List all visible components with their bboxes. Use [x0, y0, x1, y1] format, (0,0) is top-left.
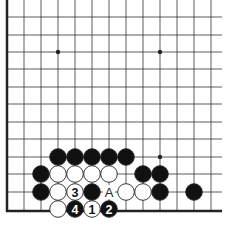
- white-stone: [101, 166, 118, 183]
- move-number: 2: [106, 203, 113, 217]
- black-stone-2: 2: [101, 201, 118, 218]
- white-stone-1: 1: [84, 201, 101, 218]
- black-stone: [67, 149, 84, 166]
- white-stone: [67, 166, 84, 183]
- black-stone: [84, 149, 101, 166]
- white-stone: [50, 166, 67, 183]
- star-point: [158, 50, 162, 54]
- star-point: [158, 155, 162, 159]
- mark-label: A: [105, 185, 114, 200]
- black-stone: [101, 149, 118, 166]
- black-stone: [84, 184, 101, 201]
- black-stone: [118, 149, 135, 166]
- star-point: [56, 50, 60, 54]
- move-number: 1: [89, 203, 96, 217]
- white-stone: [84, 166, 101, 183]
- white-stone-3: 3: [67, 184, 84, 201]
- black-stone-4: 4: [67, 201, 84, 218]
- white-stone: [135, 184, 152, 201]
- black-stone: [186, 184, 203, 201]
- black-stone: [33, 166, 50, 183]
- white-stone: [50, 184, 67, 201]
- go-board: A 3412: [0, 0, 227, 229]
- black-stone: [50, 149, 67, 166]
- black-stone: [33, 184, 50, 201]
- board-marks: A: [103, 185, 115, 200]
- black-stone: [135, 166, 152, 183]
- white-stone: [118, 184, 135, 201]
- black-stone: [152, 184, 169, 201]
- black-stone: [152, 166, 169, 183]
- move-number: 3: [72, 186, 79, 200]
- move-number: 4: [72, 203, 79, 217]
- white-stone: [50, 201, 67, 218]
